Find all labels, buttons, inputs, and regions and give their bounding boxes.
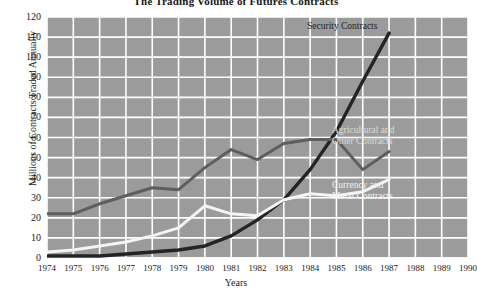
chart-title: The Trading Volume of Futures Contracts	[0, 0, 472, 7]
x-tick-1984: 1984	[301, 263, 319, 274]
series-line-agricultural-and-other-contracts	[47, 140, 389, 214]
y-tick-120: 120	[26, 12, 41, 22]
y-tick-0: 0	[36, 253, 41, 263]
x-tick-1975: 1975	[64, 263, 82, 274]
x-tick-1987: 1987	[380, 263, 398, 274]
y-tick-10: 10	[31, 233, 41, 243]
x-tick-1977: 1977	[117, 263, 135, 274]
y-tick-70: 70	[31, 112, 41, 122]
series-label-agricultural-line2: Other Contracts	[332, 136, 395, 147]
y-tick-100: 100	[26, 52, 41, 62]
y-tick-80: 80	[31, 92, 41, 102]
y-tick-40: 40	[31, 173, 41, 183]
plot-area: Security Contracts Agricultural and Othe…	[47, 17, 468, 258]
series-label-security-text: Security Contracts	[307, 21, 377, 31]
series-label-security: Security Contracts	[307, 21, 377, 32]
x-tick-1981: 1981	[222, 263, 240, 274]
x-tick-1974: 1974	[38, 263, 56, 274]
y-axis-tick-labels: 0102030405060708090100110120	[0, 0, 44, 293]
gridlines	[47, 17, 468, 258]
x-tick-1978: 1978	[143, 263, 161, 274]
x-tick-1976: 1976	[91, 263, 109, 274]
x-tick-1979: 1979	[170, 263, 188, 274]
y-tick-20: 20	[31, 213, 41, 223]
y-tick-60: 60	[31, 133, 41, 143]
x-tick-1985: 1985	[327, 263, 345, 274]
x-axis-title: Years	[0, 277, 472, 288]
x-tick-1986: 1986	[354, 263, 372, 274]
series-label-agricultural-line1: Agricultural and	[332, 125, 395, 136]
y-tick-30: 30	[31, 193, 41, 203]
x-tick-1980: 1980	[196, 263, 214, 274]
series-label-currency-line1: Currency and	[332, 180, 393, 191]
x-tick-1983: 1983	[275, 263, 293, 274]
x-tick-1990: 1990	[459, 263, 477, 274]
series-label-currency-line2: Metal Contracts	[332, 191, 393, 202]
x-tick-1988: 1988	[406, 263, 424, 274]
x-tick-1982: 1982	[249, 263, 267, 274]
x-tick-1989: 1989	[433, 263, 451, 274]
series-label-agricultural: Agricultural and Other Contracts	[332, 125, 395, 146]
y-tick-110: 110	[26, 32, 41, 42]
plot-svg	[47, 17, 468, 258]
series-label-currency: Currency and Metal Contracts	[332, 180, 393, 201]
y-tick-50: 50	[31, 153, 41, 163]
y-tick-90: 90	[31, 72, 41, 82]
